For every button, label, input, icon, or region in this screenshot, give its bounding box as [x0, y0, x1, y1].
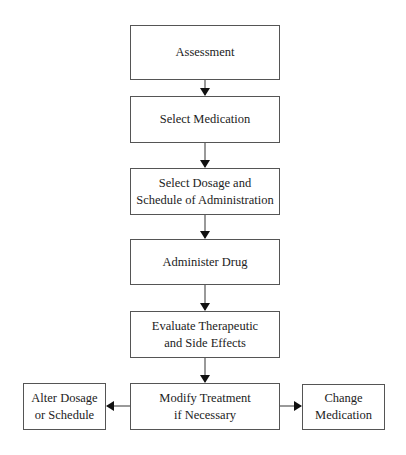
node-modify-treatment: Modify Treatment if Necessary — [130, 383, 280, 430]
node-label: Administer Drug — [162, 254, 247, 271]
node-label-line-1: Evaluate Therapeutic — [152, 318, 258, 335]
node-evaluate-effects: Evaluate Therapeutic and Side Effects — [130, 311, 280, 358]
node-label: Assessment — [175, 44, 234, 61]
node-label: Select Medication — [160, 111, 251, 128]
node-label-line-1: Alter Dosage — [31, 390, 97, 407]
flowchart-canvas: Assessment Select Medication Select Dosa… — [0, 0, 406, 455]
node-administer-drug: Administer Drug — [130, 239, 280, 285]
node-label-line-2: or Schedule — [35, 407, 94, 424]
node-assessment: Assessment — [130, 25, 280, 80]
node-label-line-2: Schedule of Administration — [136, 192, 273, 209]
node-label-line-2: if Necessary — [174, 407, 236, 424]
node-label-line-1: Select Dosage and — [159, 175, 251, 192]
node-label-line-1: Change — [324, 390, 362, 407]
node-select-dosage: Select Dosage and Schedule of Administra… — [130, 168, 280, 215]
node-alter-dosage: Alter Dosage or Schedule — [23, 383, 106, 430]
node-label-line-2: Medication — [315, 407, 372, 424]
node-label-line-2: and Side Effects — [164, 335, 246, 352]
node-select-medication: Select Medication — [130, 96, 280, 143]
node-label-line-1: Modify Treatment — [159, 390, 250, 407]
node-change-medication: Change Medication — [302, 384, 385, 430]
